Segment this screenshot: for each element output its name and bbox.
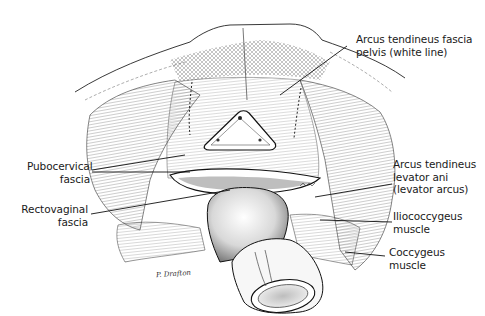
label-line: Arcus tendineus fascia: [356, 33, 472, 46]
label-line: Coccygeus: [389, 246, 445, 259]
anatomical-illustration: Arcus tendineus fascia pelvis (white lin…: [0, 0, 485, 316]
label-line: (levator arcus): [393, 183, 476, 196]
label-line: fascia: [20, 216, 88, 229]
label-line: Iliococcygeus: [393, 210, 462, 223]
label-line: fascia: [27, 173, 90, 186]
label-arcus-tendineus-levator-ani: Arcus tendineus levator ani (levator arc…: [393, 158, 476, 196]
label-line: levator ani: [393, 171, 476, 184]
label-rectovaginal-fascia: Rectovaginal fascia: [20, 203, 88, 228]
label-line: pelvis (white line): [356, 46, 472, 59]
label-line: muscle: [393, 223, 462, 236]
label-line: Rectovaginal: [20, 203, 88, 216]
label-line: muscle: [389, 259, 445, 272]
label-pubocervical-fascia: Pubocervical fascia: [27, 160, 90, 185]
label-coccygeus-muscle: Coccygeus muscle: [389, 246, 445, 271]
label-iliococcygeus-muscle: Iliococcygeus muscle: [393, 210, 462, 235]
label-arcus-tendineus-fascia-pelvis: Arcus tendineus fascia pelvis (white lin…: [356, 33, 472, 58]
label-line: Arcus tendineus: [393, 158, 476, 171]
label-line: Pubocervical: [27, 160, 90, 173]
